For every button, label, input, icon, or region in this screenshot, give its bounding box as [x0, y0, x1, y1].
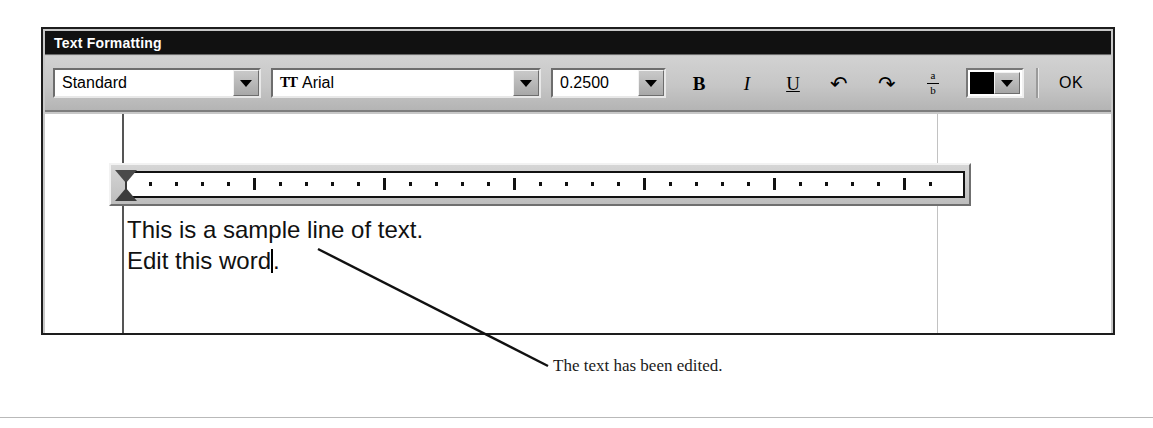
- chevron-down-icon[interactable]: [638, 70, 664, 96]
- ruler-minor-tick: [825, 182, 828, 186]
- redo-icon: ↷: [878, 73, 896, 94]
- ruler-minor-tick: [149, 182, 152, 186]
- font-size-value: 0.2500: [553, 75, 638, 91]
- font-family-combobox[interactable]: TT Arial: [271, 68, 541, 98]
- ok-button[interactable]: OK: [1059, 75, 1083, 91]
- document-line-2[interactable]: Edit this word.: [127, 245, 423, 276]
- stacked-fraction-button[interactable]: a b: [918, 67, 948, 99]
- document-line-2-suffix: .: [273, 247, 280, 274]
- ruler-major-tick: [253, 178, 256, 190]
- truetype-icon: TT: [273, 75, 298, 90]
- ruler-minor-tick: [435, 182, 438, 186]
- chevron-down-icon[interactable]: [233, 70, 259, 96]
- bold-button[interactable]: B: [684, 67, 714, 99]
- chevron-down-icon[interactable]: [994, 72, 1020, 94]
- left-margin-guide: [122, 114, 124, 333]
- text-formatting-dialog: Text Formatting Standard TT Arial 0.2500…: [41, 27, 1115, 335]
- undo-icon: ↶: [830, 73, 848, 94]
- paragraph-style-value: Standard: [55, 75, 233, 91]
- color-swatch-icon[interactable]: [970, 72, 994, 94]
- ruler-major-tick: [903, 178, 906, 190]
- ruler-minor-tick: [721, 182, 724, 186]
- ruler-minor-tick: [851, 182, 854, 186]
- ruler-minor-tick: [357, 182, 360, 186]
- ruler-minor-tick: [175, 182, 178, 186]
- ruler-minor-tick: [279, 182, 282, 186]
- ruler-minor-tick: [799, 182, 802, 186]
- indent-left-marker[interactable]: [115, 188, 137, 201]
- text-color-picker[interactable]: [966, 68, 1024, 98]
- italic-button[interactable]: I: [732, 67, 762, 99]
- ruler-minor-tick: [305, 182, 308, 186]
- dialog-title-bar[interactable]: Text Formatting: [45, 31, 1111, 55]
- ruler-minor-tick: [877, 182, 880, 186]
- ruler-major-tick: [383, 178, 386, 190]
- ruler-major-tick: [643, 178, 646, 190]
- ruler-minor-tick: [331, 182, 334, 186]
- ruler-minor-tick: [669, 182, 672, 186]
- font-family-value: Arial: [298, 75, 513, 91]
- ruler-minor-tick: [539, 182, 542, 186]
- ruler-minor-tick: [929, 182, 932, 186]
- ruler-minor-tick: [487, 182, 490, 186]
- ruler-minor-tick: [201, 182, 204, 186]
- fraction-numerator: a: [927, 70, 940, 84]
- ruler-minor-tick: [227, 182, 230, 186]
- ruler-minor-tick: [747, 182, 750, 186]
- undo-button[interactable]: ↶: [824, 67, 854, 99]
- underline-button[interactable]: U: [778, 67, 808, 99]
- ruler-minor-tick: [461, 182, 464, 186]
- ruler[interactable]: [109, 163, 971, 206]
- ruler-minor-tick: [409, 182, 412, 186]
- chevron-down-icon[interactable]: [513, 70, 539, 96]
- ruler-minor-tick: [591, 182, 594, 186]
- font-size-combobox[interactable]: 0.2500: [551, 68, 666, 98]
- stacked-fraction-icon: a b: [926, 70, 940, 96]
- fraction-denominator: b: [926, 84, 940, 97]
- ruler-minor-tick: [565, 182, 568, 186]
- callout-text: The text has been edited.: [553, 356, 722, 376]
- document-text[interactable]: This is a sample line of text. Edit this…: [127, 214, 423, 276]
- ruler-major-tick: [513, 178, 516, 190]
- paragraph-style-combobox[interactable]: Standard: [53, 68, 261, 98]
- ruler-minor-tick: [695, 182, 698, 186]
- right-margin-guide: [937, 114, 938, 333]
- document-line-1[interactable]: This is a sample line of text.: [127, 214, 423, 245]
- toolbar-separator: [1036, 68, 1039, 98]
- formatting-toolbar: Standard TT Arial 0.2500 B I U ↶ ↷ a b: [45, 56, 1111, 112]
- ruler-major-tick: [773, 178, 776, 190]
- ruler-minor-tick: [617, 182, 620, 186]
- bottom-divider: [0, 417, 1153, 418]
- redo-button[interactable]: ↷: [872, 67, 902, 99]
- document-line-2-text: Edit this word: [127, 247, 271, 274]
- ruler-track[interactable]: [125, 171, 965, 198]
- dialog-title: Text Formatting: [45, 35, 162, 51]
- document-canvas[interactable]: This is a sample line of text. Edit this…: [45, 114, 1111, 333]
